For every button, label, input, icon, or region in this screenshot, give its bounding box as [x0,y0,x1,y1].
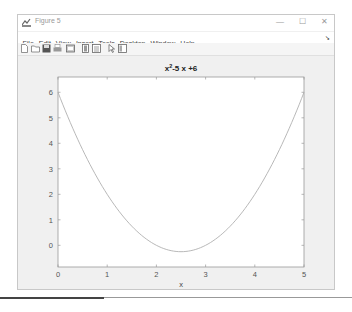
x-tick-label: 3 [204,270,208,279]
edit-plot-arrow-icon[interactable] [107,44,116,53]
minimize-button[interactable]: — [270,16,290,28]
taskbar-edge [0,297,352,312]
matlab-figure-icon [22,18,31,27]
x-tick-label: 5 [302,270,306,279]
maximize-button[interactable]: ☐ [292,16,312,28]
new-figure-icon[interactable] [20,44,29,53]
figure-canvas: 0123450123456x2-5 x +6x [18,56,334,289]
x-tick-label: 2 [154,270,158,279]
dock-arrow-icon[interactable]: ➘ [325,34,330,41]
window-title: Figure 5 [35,17,61,24]
y-tick-label: 1 [49,216,53,225]
toolbar [18,43,334,56]
x-tick-label: 1 [105,270,109,279]
y-tick-label: 4 [49,139,53,148]
insert-legend-icon[interactable] [92,44,101,53]
y-tick-label: 0 [49,241,53,250]
x-tick-label: 4 [253,270,257,279]
chart-title: x2-5 x +6 [165,63,198,73]
print-icon[interactable] [53,44,62,53]
y-tick-label: 3 [49,165,53,174]
save-icon[interactable] [42,44,51,53]
x-tick-label: 0 [56,270,60,279]
plot-area[interactable]: 0123450123456x2-5 x +6x [18,56,334,289]
y-tick-label: 2 [49,190,53,199]
figure-window: Figure 5 — ☐ ✕ FileEditViewInsertToolsDe… [17,14,335,290]
open-file-icon[interactable] [31,44,40,53]
insert-colorbar-icon[interactable] [81,44,90,53]
taskbar-divider [104,297,352,298]
menu-bar: FileEditViewInsertToolsDesktopWindowHelp… [18,32,334,43]
x-axis-label: x [179,280,183,289]
taskbar-active-segment [0,297,104,299]
property-inspector-icon[interactable] [118,44,127,53]
close-button[interactable]: ✕ [314,16,334,28]
y-tick-label: 6 [49,88,53,97]
link-plot-icon[interactable] [66,44,75,53]
title-bar[interactable]: Figure 5 — ☐ ✕ [18,15,334,31]
y-tick-label: 5 [49,114,53,123]
axes-box [58,77,304,267]
